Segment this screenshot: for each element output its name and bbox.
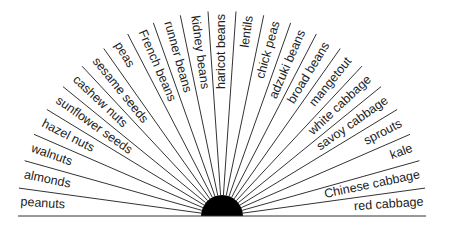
pulses-nuts-vegetables-fan-diagram: peanutsalmondswalnutshazel nutssunflower… <box>0 0 449 233</box>
sector-label: peanuts <box>20 195 65 212</box>
center-hub <box>201 195 243 216</box>
divider-line <box>232 34 317 197</box>
sector-label: red cabbage <box>354 195 424 214</box>
sector-label: walnuts <box>29 141 75 169</box>
sector-labels: peanutsalmondswalnutshazel nutssunflower… <box>20 14 424 213</box>
sector-label: kale <box>388 141 414 162</box>
sector-label: sprouts <box>361 116 404 147</box>
sector-label: almonds <box>23 167 72 190</box>
sector-label: haricot beans <box>214 14 228 89</box>
sector-label: lentils <box>238 15 256 49</box>
